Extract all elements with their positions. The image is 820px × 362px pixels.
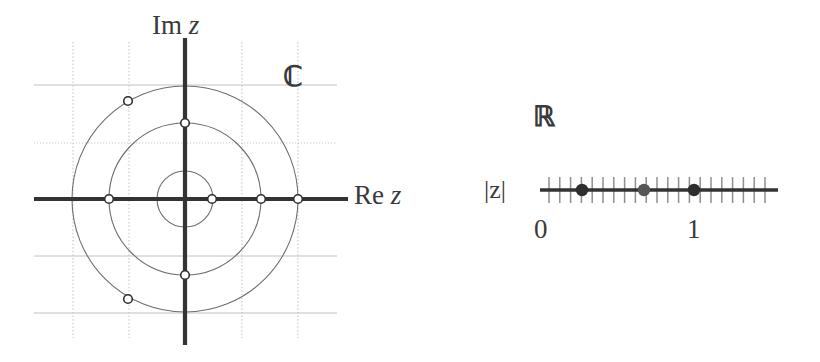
tick-label-zero: 0 xyxy=(534,216,548,243)
marker-inner-real-positive xyxy=(208,195,217,204)
real-axis-label: Re z xyxy=(354,182,401,209)
marker-outer-upper-left xyxy=(124,97,133,106)
figure-background xyxy=(0,0,820,362)
complex-plane-symbol: ℂ xyxy=(283,63,303,91)
imaginary-axis-label-prefix: Im xyxy=(152,10,182,40)
real-line-symbol: ℝ xyxy=(533,103,555,131)
marker-outer-real-positive xyxy=(294,195,303,204)
real-axis-label-variable: z xyxy=(391,180,402,210)
imaginary-axis-label-variable: z xyxy=(189,10,200,40)
complex-plane-and-real-line-figure xyxy=(0,0,820,362)
marker-middle-real-negative xyxy=(105,195,114,204)
marker-middle-imag-positive xyxy=(181,119,190,128)
imaginary-axis-label: Im z xyxy=(152,12,199,39)
modulus-point-one xyxy=(688,184,700,196)
marker-middle-real-positive xyxy=(257,195,266,204)
modulus-label: |z| xyxy=(484,177,506,203)
marker-middle-imag-negative xyxy=(181,271,190,280)
modulus-point-two-thirds xyxy=(638,184,650,196)
real-axis-label-prefix: Re xyxy=(354,180,384,210)
marker-outer-lower-left xyxy=(124,295,133,304)
tick-label-one: 1 xyxy=(687,216,701,243)
modulus-point-quarter xyxy=(576,184,588,196)
